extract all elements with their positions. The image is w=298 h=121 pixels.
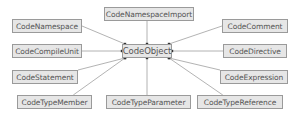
node-code-namespace: CodeNamespace <box>12 19 82 33</box>
edge-codenamespace <box>82 26 125 44</box>
node-code-type-reference: CodeTypeReference <box>197 95 283 109</box>
node-label: CodeObject <box>123 46 171 56</box>
node-label: CodeExpression <box>225 73 284 82</box>
node-code-object: CodeObject <box>122 44 172 58</box>
node-code-type-parameter: CodeTypeParameter <box>106 95 191 109</box>
node-label: CodeCompileUnit <box>15 47 79 56</box>
edge-codeexpression <box>169 58 220 70</box>
node-label: CodeNamespaceImport <box>106 10 192 19</box>
node-code-directive: CodeDirective <box>223 44 287 58</box>
edge-codecomment <box>169 26 222 44</box>
node-code-comment: CodeComment <box>222 19 288 33</box>
node-label: CodeTypeReference <box>204 98 277 107</box>
node-code-statement: CodeStatement <box>12 70 78 84</box>
node-label: CodeNamespace <box>16 22 78 31</box>
node-code-namespace-import: CodeNamespaceImport <box>104 7 194 21</box>
node-label: CodeComment <box>228 22 283 31</box>
node-label: CodeStatement <box>16 73 73 82</box>
edge-codestatement <box>78 58 125 70</box>
node-label: CodeTypeParameter <box>112 98 186 107</box>
edge-codetypereference <box>169 58 223 95</box>
node-code-type-member: CodeTypeMember <box>17 95 92 109</box>
node-code-expression: CodeExpression <box>220 70 288 84</box>
node-code-compile-unit: CodeCompileUnit <box>12 44 82 58</box>
edge-codetypemember <box>73 58 125 95</box>
node-label: CodeTypeMember <box>22 98 88 107</box>
node-label: CodeDirective <box>229 47 281 56</box>
